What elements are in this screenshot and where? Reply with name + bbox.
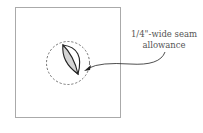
arrow-head-icon (84, 65, 91, 71)
label-line-2: allowance (128, 40, 200, 51)
arrow-line (89, 52, 165, 68)
label-line-1: 1/4"-wide seam (128, 29, 200, 40)
seam-allowance-label: 1/4"-wide seam allowance (128, 29, 200, 50)
seam-diagram (0, 0, 203, 133)
